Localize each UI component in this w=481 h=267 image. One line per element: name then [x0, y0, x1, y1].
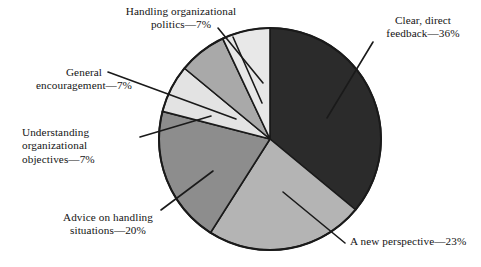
callout-label-general-encouragement: General encouragement—7% [24, 66, 144, 93]
callout-label-handling-organizational-politics: Handling organizational politics—7% [104, 5, 258, 32]
pie-slices [159, 28, 381, 250]
callout-label-advice-on-handling-situations: Advice on handling situations—20% [46, 211, 170, 238]
callout-label-understanding-organizational-objectives: Understanding organizational objectives—… [22, 126, 134, 166]
callout-label-a-new-perspective: A new perspective—23% [350, 235, 480, 248]
pie-chart-figure: Handling organizational politics—7% Clea… [0, 0, 481, 267]
callout-label-clear-direct-feedback: Clear, direct feedback—36% [368, 14, 478, 41]
